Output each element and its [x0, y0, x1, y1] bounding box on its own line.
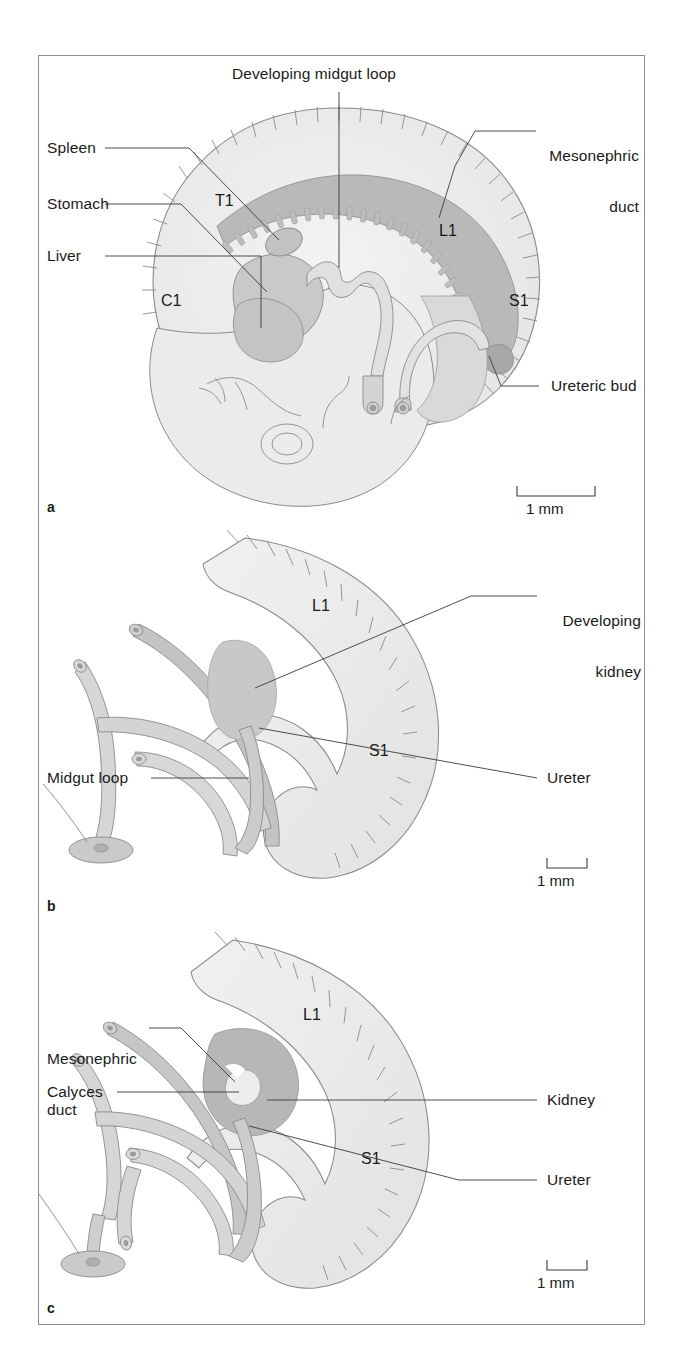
umbilical-thread-c [39, 1194, 79, 1254]
label-developing-midgut-loop: Developing midgut loop [232, 65, 396, 82]
label-developing-kidney: Developing kidney [541, 578, 641, 714]
vertebra-label-l1: L1 [439, 222, 457, 239]
scale-bar-c [547, 1260, 587, 1270]
label-mesonephric-duct-line1: Mesonephric [549, 147, 639, 164]
label-calyces: Calyces [47, 1083, 103, 1100]
vertebra-label-s1-c: S1 [361, 1150, 381, 1167]
figure-frame: T1 L1 C1 S1 Developing midgut loop Meson… [38, 55, 645, 1325]
label-mesonephric-duct-c-line2: duct [47, 1101, 137, 1118]
scale-bar-a [517, 486, 595, 496]
panel-letter-c: c [47, 1300, 55, 1316]
panel-c: L1 S1 Mesonephric duct Calyces Kidney Ur… [39, 916, 644, 1324]
scale-bar-caption-b: 1 mm [537, 872, 575, 889]
panel-a: T1 L1 C1 S1 Developing midgut loop Meson… [39, 56, 644, 516]
scale-bar-caption-a: 1 mm [526, 500, 564, 517]
label-ureter-c: Ureter [547, 1171, 591, 1188]
label-developing-kidney-line2: kidney [541, 663, 641, 680]
label-mesonephric-duct-c-line1: Mesonephric [47, 1050, 137, 1067]
umbilical-thread-b [43, 784, 87, 842]
kidney-shape-c [203, 1029, 298, 1136]
panel-b: L1 S1 Developing kidney Midgut loop Uret… [39, 516, 644, 916]
scale-bar-b [547, 858, 587, 868]
vertebra-label-s1: S1 [509, 292, 529, 309]
label-midgut-loop: Midgut loop [47, 769, 128, 786]
cloaca-lumen-b [94, 844, 108, 852]
developing-kidney-shape [208, 640, 277, 740]
label-kidney: Kidney [547, 1091, 595, 1108]
midgut-loop-b [71, 657, 116, 842]
scale-bar-caption-c: 1 mm [537, 1274, 575, 1291]
panel-letter-a: a [47, 499, 55, 515]
panel-letter-b: b [47, 898, 56, 914]
label-ureteric-bud: Ureteric bud [551, 377, 637, 394]
vertebra-label-c1: C1 [161, 292, 182, 309]
vertebra-label-t1: T1 [215, 192, 234, 209]
cloaca-lumen-c [86, 1258, 100, 1266]
label-liver: Liver [47, 247, 81, 264]
vertebra-label-l1-b: L1 [312, 597, 330, 614]
label-spleen: Spleen [47, 139, 96, 156]
label-mesonephric-duct: Mesonephric duct [549, 113, 639, 249]
label-mesonephric-duct-line2: duct [549, 198, 639, 215]
panel-b-drawing: L1 S1 [39, 516, 644, 916]
label-developing-kidney-line1: Developing [541, 612, 641, 629]
label-stomach: Stomach [47, 195, 109, 212]
vertebra-label-l1-c: L1 [303, 1006, 321, 1023]
label-ureter-b: Ureter [547, 769, 591, 786]
